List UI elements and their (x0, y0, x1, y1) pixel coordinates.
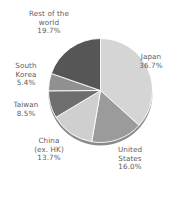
slice-value-rest-of-the-world: 19.7% (14, 27, 84, 36)
slice-value-taiwan: 8.5% (2, 110, 50, 119)
slice-value-japan: 36.7% (126, 62, 176, 71)
slice-label-china: China (ex. HK) 13.7% (22, 137, 76, 163)
slice-value-china: 13.7% (22, 154, 76, 163)
slice-label-rest-of-the-world: Rest of the world 19.7% (14, 10, 84, 36)
slice-label-united-states: United States 16.0% (104, 146, 156, 172)
slice-value-united-states: 16.0% (104, 163, 156, 172)
pie-chart-figure: Rest of the world 19.7% Japan 36.7% Sout… (0, 0, 191, 198)
slice-value-south-korea: 5.4% (4, 79, 48, 88)
slice-label-japan: Japan 36.7% (126, 53, 176, 70)
slice-label-south-korea: South Korea 5.4% (4, 62, 48, 88)
slice-label-taiwan: Taiwan 8.5% (2, 101, 50, 118)
